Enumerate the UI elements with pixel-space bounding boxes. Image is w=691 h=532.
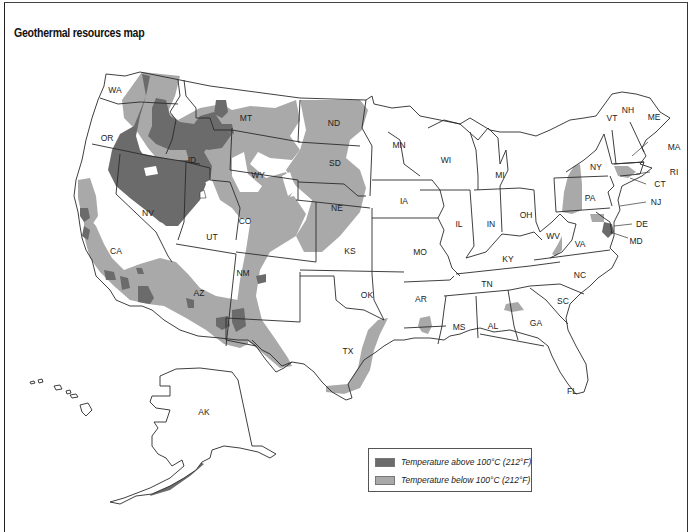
border-nc-sc xyxy=(510,284,584,294)
region-high-md xyxy=(602,222,614,238)
region-low-arkansas xyxy=(418,316,432,334)
label-ma: MA xyxy=(668,142,681,152)
label-oh: OH xyxy=(520,210,533,220)
region-low-texas xyxy=(326,318,388,394)
label-nj: NJ xyxy=(651,197,661,207)
label-ga: GA xyxy=(530,318,543,328)
label-ms: MS xyxy=(453,322,466,332)
label-tn: TN xyxy=(481,279,492,289)
label-ca: CA xyxy=(110,246,122,256)
legend-item-high: Temperature above 100°C (212°F) xyxy=(375,457,531,467)
border-tn-south xyxy=(444,290,510,296)
label-vt: VT xyxy=(607,113,618,123)
label-me: ME xyxy=(648,112,661,122)
label-wv: WV xyxy=(546,231,560,241)
label-ak: AK xyxy=(198,407,210,417)
legend-label-low: Temperature below 100°C (212°F) xyxy=(401,475,530,485)
legend-swatch-low xyxy=(375,476,395,485)
border-mi-in-oh xyxy=(474,188,534,190)
legend-label-high: Temperature above 100°C (212°F) xyxy=(401,457,531,467)
label-ny: NY xyxy=(590,162,602,172)
label-ri: RI xyxy=(670,167,679,177)
map-legend: Temperature above 100°C (212°F) Temperat… xyxy=(368,448,532,492)
region-low-md xyxy=(590,214,604,222)
border-vt-nh xyxy=(612,130,616,164)
border-ms-al xyxy=(476,296,478,338)
border-ks-ok xyxy=(300,270,404,272)
region-low-georgia xyxy=(504,302,524,312)
label-ut: UT xyxy=(206,232,217,242)
label-sd: SD xyxy=(329,158,341,168)
label-al: AL xyxy=(488,321,499,331)
label-id: ID xyxy=(188,155,197,165)
border-in-oh xyxy=(500,186,502,232)
label-ok: OK xyxy=(361,290,374,300)
border-oh-east xyxy=(534,190,540,232)
label-mo: MO xyxy=(413,247,427,257)
label-ks: KS xyxy=(344,246,356,256)
label-mn: MN xyxy=(392,140,405,150)
border-ar-ms xyxy=(438,296,446,344)
label-wy: WY xyxy=(251,170,265,180)
border-al-ga xyxy=(508,290,518,340)
label-nc: NC xyxy=(574,270,586,280)
label-ar: AR xyxy=(415,294,427,304)
border-ny-nj xyxy=(608,176,614,206)
label-wi: WI xyxy=(441,155,451,165)
legend-swatch-high xyxy=(375,458,395,467)
border-ks-mo xyxy=(372,208,384,320)
label-az: AZ xyxy=(194,288,205,298)
label-ct: CT xyxy=(654,179,665,189)
label-wa: WA xyxy=(108,85,122,95)
region-low-ct xyxy=(614,166,636,178)
label-va: VA xyxy=(575,239,586,249)
label-tx: TX xyxy=(343,346,354,356)
label-nd: ND xyxy=(328,118,340,128)
border-mn-wi xyxy=(388,132,420,176)
label-de: DE xyxy=(636,219,648,229)
label-pa: PA xyxy=(585,193,596,203)
region-low-pa xyxy=(562,164,582,214)
label-nv: NV xyxy=(142,208,154,218)
alaska-outline xyxy=(110,368,276,504)
label-ia: IA xyxy=(400,196,408,206)
label-mi: MI xyxy=(495,170,504,180)
label-ne: NE xyxy=(331,203,343,213)
label-co: CO xyxy=(239,216,252,226)
border-ga-fl xyxy=(480,334,544,346)
label-or: OR xyxy=(101,133,114,143)
label-fl: FL xyxy=(567,386,577,396)
border-mi-outline xyxy=(470,132,478,190)
label-nm: NM xyxy=(236,268,249,278)
border-mo-east xyxy=(440,244,460,276)
label-sc: SC xyxy=(557,296,569,306)
label-md: MD xyxy=(629,236,642,246)
border-il-in xyxy=(466,190,474,258)
border-mo-ar xyxy=(404,276,454,282)
border-ut-az xyxy=(176,244,236,254)
hawaii-islands xyxy=(30,379,92,416)
label-in: IN xyxy=(487,219,496,229)
label-il: IL xyxy=(455,219,462,229)
label-nh: NH xyxy=(622,105,634,115)
label-ky: KY xyxy=(502,254,514,264)
border-pa-west xyxy=(554,178,556,212)
border-va-nc xyxy=(534,250,610,260)
legend-item-low: Temperature below 100°C (212°F) xyxy=(375,475,530,485)
region-low-ca-coast xyxy=(78,178,98,228)
label-mt: MT xyxy=(240,113,252,123)
